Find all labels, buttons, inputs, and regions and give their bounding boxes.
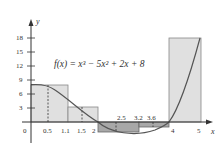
svg-text:6: 6 (19, 90, 23, 98)
svg-text:5: 5 (197, 127, 201, 135)
svg-text:3.2: 3.2 (134, 114, 143, 122)
rect-3.2-4 (139, 122, 169, 127)
svg-text:4: 4 (171, 127, 175, 135)
y-axis-label: y (35, 17, 40, 26)
svg-text:1.1: 1.1 (61, 127, 70, 135)
riemann-sum-chart: y x 18 15 12 9 6 3 0 0.5 1.1 1.5 2 2.5 3… (0, 0, 222, 149)
svg-text:3.6: 3.6 (147, 114, 156, 122)
svg-text:1.5: 1.5 (77, 127, 86, 135)
svg-text:2: 2 (92, 127, 96, 135)
svg-text:2.5: 2.5 (117, 114, 126, 122)
rect-0-1.1 (31, 85, 68, 122)
function-label: f(x) = x³ − 5x² + 2x + 8 (54, 59, 145, 70)
x-axis-label: x (210, 127, 215, 136)
x-axis-arrow-icon (206, 120, 213, 125)
svg-text:12: 12 (16, 62, 24, 70)
svg-text:18: 18 (16, 34, 24, 42)
svg-text:0.5: 0.5 (43, 127, 52, 135)
y-tick-labels: 18 15 12 9 6 3 (16, 34, 24, 112)
y-axis-arrow-icon (29, 19, 34, 26)
svg-text:9: 9 (19, 76, 23, 84)
svg-text:0: 0 (23, 127, 27, 135)
svg-text:15: 15 (16, 48, 24, 56)
svg-text:3: 3 (19, 104, 23, 112)
